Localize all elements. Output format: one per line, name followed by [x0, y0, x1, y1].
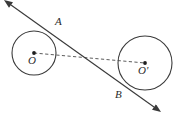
geometry-figure: A B O O' — [0, 0, 182, 118]
point-label-A: A — [55, 16, 62, 27]
center-label-O-prime: O' — [138, 65, 148, 76]
point-label-B: B — [115, 89, 122, 100]
center-label-O: O — [28, 55, 36, 66]
